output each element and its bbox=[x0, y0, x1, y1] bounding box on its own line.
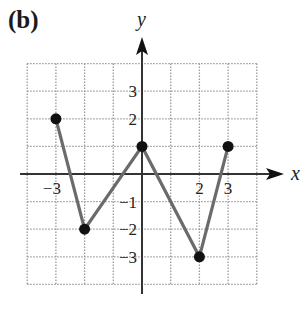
x-tick-label: 2 bbox=[195, 179, 204, 198]
data-point bbox=[79, 224, 90, 235]
y-tick-label: −2 bbox=[119, 220, 137, 239]
y-tick-label: −1 bbox=[119, 193, 137, 212]
data-point bbox=[137, 141, 148, 152]
axes: xy bbox=[20, 8, 300, 294]
chart-canvas: xy −32332−1−2−3 bbox=[0, 0, 308, 311]
y-tick-label: 3 bbox=[129, 82, 138, 101]
x-axis-label: x bbox=[290, 162, 300, 184]
data-point bbox=[223, 141, 234, 152]
x-tick-label: 3 bbox=[224, 179, 233, 198]
y-tick-label: 2 bbox=[129, 110, 138, 129]
data-point bbox=[194, 251, 205, 262]
data-point bbox=[50, 113, 61, 124]
y-axis-label: y bbox=[135, 8, 146, 31]
y-tick-label: −3 bbox=[119, 248, 137, 267]
x-tick-label: −3 bbox=[43, 179, 61, 198]
